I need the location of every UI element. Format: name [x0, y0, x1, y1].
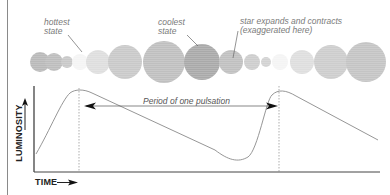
- x-axis-label: TIME: [35, 177, 57, 187]
- star-texture: [61, 56, 73, 68]
- star-texture: [290, 50, 314, 74]
- period-label: Period of one pulsation: [143, 96, 230, 106]
- y-axis-label: LUMINOSITY: [14, 104, 24, 162]
- hottest-state-label: hottest state: [44, 18, 70, 36]
- pulsating-star-diagram: hottest state coolest state star expands…: [0, 0, 390, 195]
- star-texture: [261, 57, 271, 67]
- star-texture: [314, 45, 348, 79]
- hottest-callout-line: [68, 35, 82, 52]
- coolest-callout-line: [187, 35, 198, 46]
- star-texture: [45, 53, 63, 71]
- star-texture: [86, 50, 110, 74]
- star-texture: [143, 41, 185, 83]
- star-texture: [219, 50, 243, 74]
- expands-contracts-label: star expands and contracts (exaggerated …: [240, 17, 342, 35]
- coolest-state-label: coolest state: [158, 18, 185, 36]
- star-texture: [72, 54, 88, 70]
- star-sequence: [30, 41, 386, 83]
- star-texture: [108, 45, 142, 79]
- star-texture: [184, 44, 220, 80]
- star-texture: [244, 54, 260, 70]
- star-texture: [272, 54, 288, 70]
- star-texture: [346, 42, 386, 82]
